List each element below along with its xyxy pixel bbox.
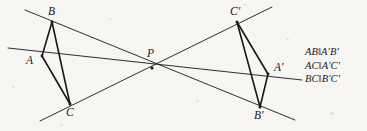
segment-BpCp (237, 22, 260, 107)
segment-AC (42, 56, 70, 104)
vertex-dot-B (51, 21, 54, 24)
line-B-P-Bp (25, 10, 295, 120)
segment-ApCp (237, 22, 268, 74)
vertex-dot-A (41, 55, 44, 58)
point-label-A: A (26, 55, 33, 67)
point-label-P: P (147, 48, 154, 60)
point-label-C-prime: C′ (230, 6, 240, 18)
segment-BC (52, 22, 70, 104)
segment-AB (42, 22, 52, 56)
relation-line-ac: AC‖A′C′ (305, 59, 367, 73)
segment-ApBp (260, 74, 268, 107)
relation-line-bc: BC‖B′C′ (305, 72, 367, 86)
point-label-B-prime: B′ (254, 110, 264, 122)
vertex-dot-Ap (267, 73, 270, 76)
vertex-dot-Cp (236, 21, 239, 24)
parallel-relations-block: AB‖A′B′ AC‖A′C′ BC‖B′C′ (305, 45, 367, 86)
triangle-ABC (42, 22, 70, 104)
relation-line-ab: AB‖A′B′ (305, 45, 367, 59)
vertex-dot-P (150, 66, 153, 69)
point-label-A-prime: A′ (274, 62, 284, 74)
triangle-ApBpCp (237, 22, 268, 107)
point-label-B: B (48, 6, 55, 18)
geometry-figure: B A C P C′ A′ B′ AB‖A′B′ AC‖A′C′ BC‖B′C′ (0, 0, 367, 131)
point-label-C: C (66, 107, 74, 119)
